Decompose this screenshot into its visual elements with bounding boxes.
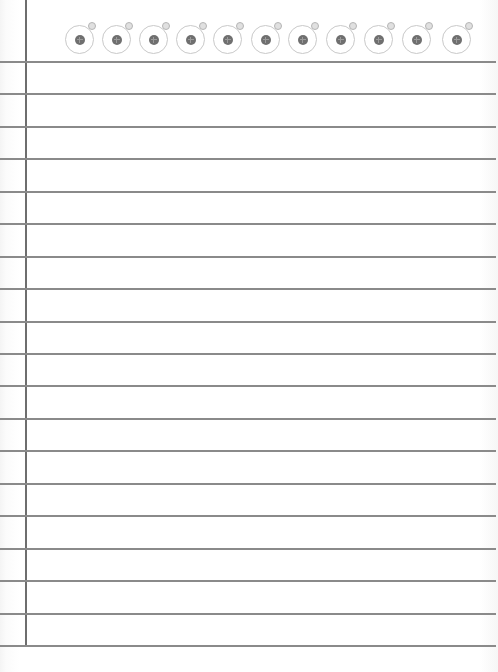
spiral-binding [0, 0, 498, 60]
spiral-ring-icon [442, 25, 471, 54]
spiral-ring-icon [213, 25, 242, 54]
punch-hole-icon [336, 35, 346, 45]
ruled-line [0, 158, 496, 160]
spiral-ring-icon [65, 25, 94, 54]
ruled-line [0, 450, 496, 452]
spiral-ring-icon [326, 25, 355, 54]
wire-loop-icon [311, 22, 319, 30]
wire-loop-icon [349, 22, 357, 30]
ruled-line [0, 515, 496, 517]
wire-loop-icon [425, 22, 433, 30]
spiral-ring-icon [102, 25, 131, 54]
ruled-line [0, 321, 496, 323]
ruled-line [0, 580, 496, 582]
ruled-line [0, 126, 496, 128]
wire-loop-icon [88, 22, 96, 30]
ruled-line [0, 61, 496, 63]
spiral-ring-icon [402, 25, 431, 54]
spiral-ring-icon [251, 25, 280, 54]
ruled-line [0, 613, 496, 615]
ruled-line [0, 645, 496, 647]
ruled-line [0, 418, 496, 420]
ruled-line [0, 93, 496, 95]
punch-hole-icon [261, 35, 271, 45]
punch-hole-icon [452, 35, 462, 45]
wire-loop-icon [199, 22, 207, 30]
notepad-page [0, 0, 498, 672]
ruled-line [0, 191, 496, 193]
spiral-ring-icon [139, 25, 168, 54]
wire-loop-icon [387, 22, 395, 30]
punch-hole-icon [374, 35, 384, 45]
spiral-ring-icon [288, 25, 317, 54]
ruled-line [0, 256, 496, 258]
wire-loop-icon [162, 22, 170, 30]
wire-loop-icon [465, 22, 473, 30]
wire-loop-icon [125, 22, 133, 30]
wire-loop-icon [274, 22, 282, 30]
ruled-line [0, 548, 496, 550]
wire-loop-icon [236, 22, 244, 30]
spiral-ring-icon [176, 25, 205, 54]
ruled-line [0, 288, 496, 290]
ruled-line [0, 483, 496, 485]
punch-hole-icon [186, 35, 196, 45]
punch-hole-icon [112, 35, 122, 45]
punch-hole-icon [298, 35, 308, 45]
ruled-line [0, 223, 496, 225]
punch-hole-icon [149, 35, 159, 45]
punch-hole-icon [223, 35, 233, 45]
spiral-ring-icon [364, 25, 393, 54]
ruled-line [0, 353, 496, 355]
punch-hole-icon [412, 35, 422, 45]
punch-hole-icon [75, 35, 85, 45]
ruled-line [0, 385, 496, 387]
